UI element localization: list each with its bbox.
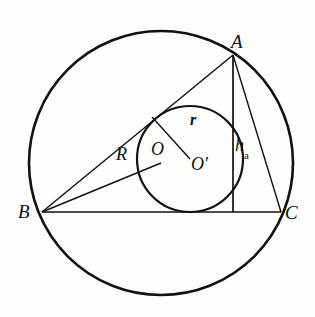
geometry-figure: A B C O O′ R r ha [0,0,315,317]
vertex-label-a: A [231,32,243,51]
altitude-label-ha: ha [235,136,249,158]
circumradius-segment-bo [42,163,161,212]
circumcenter-label-o: O [151,140,164,158]
vertex-label-b: B [18,202,30,221]
triangle-side-ab [42,55,233,212]
triangle-side-ac [233,55,281,212]
incenter-label-o-prime: O′ [191,155,208,173]
vertex-label-c: C [285,203,298,222]
altitude-label-subscript: a [244,149,249,161]
inradius-label-r: r [190,112,196,128]
circumradius-label-r: R [116,145,127,163]
altitude-label-h: h [235,135,244,155]
